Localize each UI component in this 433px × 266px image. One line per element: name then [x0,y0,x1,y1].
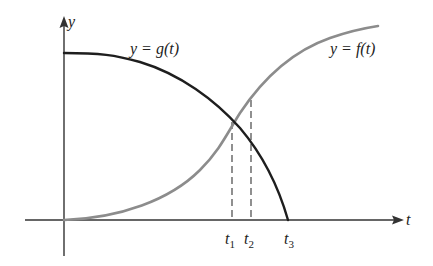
tick-t2-sub: 2 [248,238,254,250]
f-curve-label: y = f(t) [328,40,375,58]
g-curve-label-arg: (t) [164,40,179,58]
f-curve-label-lhs: y = f [328,40,363,58]
g-curve-label: y = g(t) [128,40,179,58]
tick-t3-sub: 3 [288,238,294,250]
f-curve-label-arg: (t) [360,40,375,58]
tick-t3: t3 [284,230,294,250]
y-axis-label: y [66,13,76,31]
tick-t1: t1 [225,230,235,250]
x-axis-label: t [406,211,411,228]
g-curve [64,53,288,220]
tick-t2: t2 [244,230,254,250]
tick-t1-sub: 1 [229,238,235,250]
graph-canvas: y t y = g(t) y = f(t) t1 t2 t3 [0,0,433,266]
g-curve-label-lhs: y = g [128,40,164,58]
